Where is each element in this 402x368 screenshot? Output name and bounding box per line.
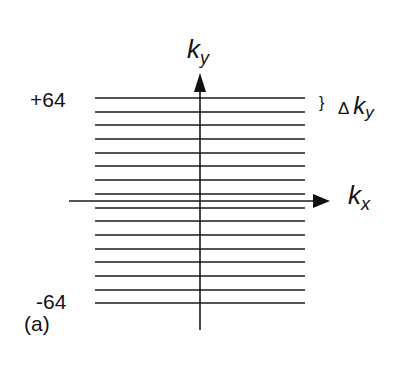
arrow-up-icon [194,73,206,92]
panel-label: (a) [24,312,50,336]
top-tick-label: +64 [30,88,66,112]
ky-axis-label: ky [187,34,209,69]
delta-brace: } [319,94,324,112]
bottom-tick-label: -64 [36,290,66,314]
delta-ky-label: Δ ky [338,92,374,123]
kx-axis-label: kx [348,180,370,215]
arrow-right-icon [313,194,330,208]
